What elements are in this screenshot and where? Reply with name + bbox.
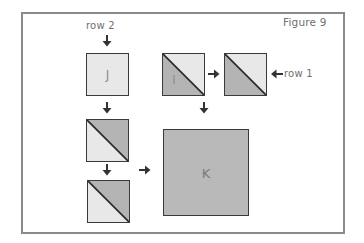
arrow-down-icon bbox=[199, 102, 209, 114]
arrow-down-icon bbox=[102, 164, 112, 176]
block-k-label: K bbox=[202, 165, 211, 180]
arrow-right-icon bbox=[208, 69, 220, 79]
block-hst-row2-a bbox=[86, 119, 129, 162]
block-k: K bbox=[163, 129, 249, 216]
half-square-triangle-icon bbox=[163, 54, 204, 95]
block-hst-row1-b bbox=[224, 53, 267, 96]
row-1-label: row 1 bbox=[284, 68, 313, 79]
half-square-triangle-icon bbox=[87, 120, 128, 161]
block-hst-row2-b bbox=[87, 180, 130, 223]
half-square-triangle-icon bbox=[225, 54, 266, 95]
block-j: J bbox=[86, 53, 129, 96]
block-i: I bbox=[162, 53, 205, 96]
figure-title: Figure 9 bbox=[283, 16, 327, 28]
arrow-down-icon bbox=[102, 102, 112, 114]
block-j-label: J bbox=[106, 68, 110, 82]
half-square-triangle-icon bbox=[88, 181, 129, 222]
block-i-label: I bbox=[172, 73, 176, 87]
arrow-left-icon bbox=[271, 69, 283, 79]
row-2-label: row 2 bbox=[86, 20, 115, 31]
arrow-right-icon bbox=[139, 165, 151, 175]
arrow-down-icon bbox=[102, 35, 112, 47]
